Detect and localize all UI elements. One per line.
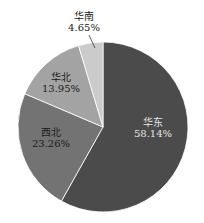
label-xibei-name: 西北 xyxy=(28,127,74,138)
label-huanan-name: 华南 xyxy=(64,11,104,22)
label-huabei-value: 13.95% xyxy=(38,83,84,94)
label-huadong-name: 华东 xyxy=(128,117,178,128)
label-xibei: 西北 23.26% xyxy=(28,127,74,149)
label-huadong: 华东 58.14% xyxy=(128,117,178,139)
pie-chart xyxy=(0,0,204,223)
label-huabei-name: 华北 xyxy=(38,72,84,83)
label-xibei-value: 23.26% xyxy=(28,138,74,149)
label-huanan-value: 4.65% xyxy=(64,22,104,33)
label-huabei: 华北 13.95% xyxy=(38,72,84,94)
label-huadong-value: 58.14% xyxy=(128,128,178,139)
label-huanan: 华南 4.65% xyxy=(64,11,104,33)
